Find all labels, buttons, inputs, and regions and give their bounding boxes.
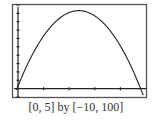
window-frame (13, 5, 147, 98)
graph-window (0, 0, 152, 100)
window-caption: [0, 5] by [−10, 100] (0, 100, 152, 115)
